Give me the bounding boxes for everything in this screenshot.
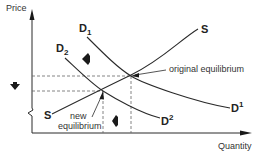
y-axis-arrow-icon — [30, 9, 35, 20]
s-top-label: S — [201, 24, 208, 35]
x-axis-arrow-icon — [240, 131, 252, 136]
demand-shift-left-arrow-icon — [82, 53, 90, 65]
y-axis-label: Price — [6, 4, 27, 13]
quantity-fall-arrow-icon — [112, 115, 118, 127]
d2-top-label: D2 — [56, 43, 68, 57]
price-fall-arrow-icon — [10, 82, 20, 90]
d2-bottom-label: D2 — [161, 114, 173, 127]
x-axis — [32, 131, 252, 136]
d1-bottom-label: D1 — [231, 101, 243, 114]
d1-top-label: D1 — [79, 23, 91, 37]
x-axis-label: Quantity — [218, 142, 252, 151]
axis-break-icon — [28, 108, 33, 116]
new-equilibrium-label-line1: new — [70, 112, 87, 121]
new-equilibrium-label-line2: equilibrium — [58, 122, 102, 131]
supply-demand-diagram — [0, 0, 266, 154]
original-equilibrium-label: original equilibrium — [169, 65, 244, 74]
s-bottom-label: S — [44, 110, 51, 121]
y-axis — [28, 9, 35, 133]
